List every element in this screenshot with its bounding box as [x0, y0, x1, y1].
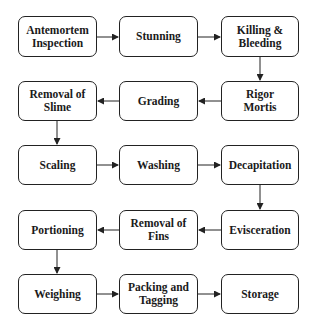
step-washing: Washing — [119, 145, 198, 185]
step-packing-tagging: Packing and Tagging — [119, 274, 198, 314]
flowchart: Antemortem Inspection Stunning Killing &… — [0, 0, 316, 333]
step-antemortem-inspection: Antemortem Inspection — [18, 16, 97, 57]
step-rigor-mortis: Rigor Mortis — [221, 81, 299, 121]
step-stunning: Stunning — [119, 16, 198, 57]
step-grading: Grading — [119, 81, 198, 121]
step-weighing: Weighing — [18, 274, 97, 314]
step-decapitation: Decapitation — [221, 145, 299, 185]
step-killing-bleeding: Killing & Bleeding — [221, 16, 299, 57]
step-storage: Storage — [221, 274, 299, 314]
step-removal-of-slime: Removal of Slime — [18, 81, 97, 121]
step-scaling: Scaling — [18, 145, 97, 185]
step-removal-of-fins: Removal of Fins — [119, 210, 198, 250]
step-evisceration: Evisceration — [221, 210, 299, 250]
step-portioning: Portioning — [18, 210, 97, 250]
